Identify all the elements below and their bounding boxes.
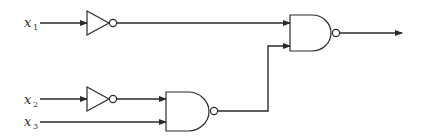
svg-text:x: x <box>24 92 32 107</box>
input-label-x1: x 1 <box>24 15 38 32</box>
wire-nand-bottom-to-nand-top <box>218 46 290 111</box>
svg-text:x: x <box>24 114 32 129</box>
svg-text:2: 2 <box>33 100 38 109</box>
svg-text:1: 1 <box>33 23 38 32</box>
not-gate-1 <box>87 11 117 35</box>
logic-circuit-diagram: x 1 x 2 x 3 <box>0 0 424 139</box>
nand-gate-bottom <box>166 92 218 131</box>
svg-text:x: x <box>24 15 32 30</box>
not-gate-2 <box>87 87 117 111</box>
input-label-x2: x 2 <box>24 92 38 109</box>
input-label-x3: x 3 <box>24 114 38 131</box>
svg-text:3: 3 <box>33 122 38 131</box>
nand-gate-top <box>290 15 340 51</box>
